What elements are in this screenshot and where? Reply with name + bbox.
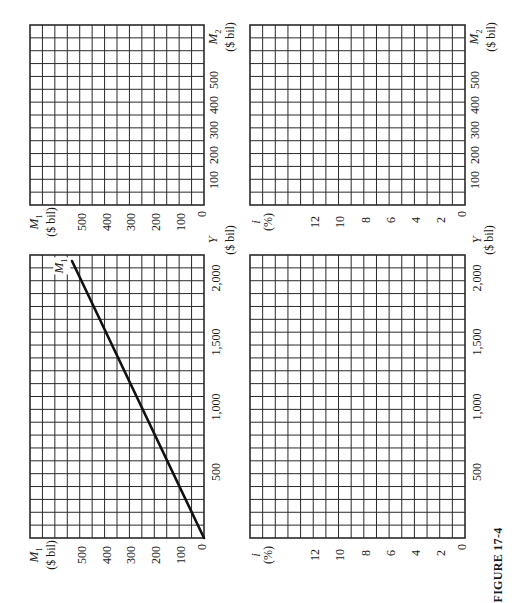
tick-tl-m2-200: 200 (208, 146, 220, 164)
tick-br-y-1500: 1,500 (471, 329, 483, 356)
axis-var: M (26, 552, 41, 563)
line-label-var: M (51, 263, 66, 274)
tick-tr-m2-100: 100 (469, 171, 481, 189)
tick-br-y-500: 500 (471, 463, 483, 481)
tick-bl-y-2000: 2,000 (210, 265, 222, 292)
axis-unit: ($ bil) (45, 540, 59, 570)
tick-tl-m2-500: 500 (208, 71, 220, 89)
tick-br-y-1000: 1,000 (471, 394, 483, 421)
axis-title-i-top-right: i (%) (250, 213, 274, 231)
axis-title-m1-bottom-left: M1 ($ bil) (28, 540, 57, 570)
tick-tl-m2-100: 100 (208, 171, 220, 189)
axis-title-i-bottom-right: i (%) (250, 546, 274, 564)
tick-bl-m1-300: 300 (125, 546, 137, 564)
tick-br-i-4: 4 (410, 550, 422, 556)
axis-title-m2-top-left: M2 ($ bil) (207, 22, 236, 52)
axis-title-y-bottom-right: Y ($ bil) (471, 225, 495, 255)
axis-unit: (%) (261, 546, 275, 564)
axis-unit: ($ bil) (224, 225, 238, 255)
tick-bl-m1-0: 0 (196, 544, 208, 550)
axis-var: M (26, 219, 41, 230)
tick-tl-m1-500: 500 (76, 213, 88, 231)
tick-br-i-6: 6 (385, 550, 397, 556)
tick-bl-m1-500: 500 (76, 546, 88, 564)
tick-tl-m1-0: 0 (196, 211, 208, 217)
grid-top-left (30, 25, 204, 205)
tick-tl-m1-200: 200 (150, 213, 162, 231)
tick-tr-i-8: 8 (360, 217, 372, 223)
tick-br-i-10: 10 (334, 549, 346, 561)
axis-sub: 2 (214, 30, 223, 34)
tick-tr-m2-500: 500 (469, 71, 481, 89)
grid-canvas (0, 0, 521, 603)
axis-unit: ($ bil) (485, 22, 499, 52)
grid-bottom-left (30, 255, 204, 538)
tick-tr-m2-300: 300 (469, 121, 481, 139)
tick-bl-y-1000: 1,000 (210, 394, 222, 421)
m1-line-label: M1 (53, 258, 70, 275)
figure-17-4: M2 ($ bil) 100 200 300 400 500 M1 ($ bil… (0, 0, 521, 603)
line-label-sub: 1 (60, 259, 69, 263)
axis-sub: 2 (475, 30, 484, 34)
tick-tr-m2-200: 200 (469, 146, 481, 164)
axis-unit: ($ bil) (482, 225, 496, 255)
axis-sub: 1 (35, 548, 44, 552)
tick-tr-i-6: 6 (385, 217, 397, 223)
axis-title-m1-top-left: M1 ($ bil) (28, 207, 57, 237)
tick-br-i-0: 0 (456, 544, 468, 550)
tick-bl-m1-400: 400 (101, 546, 113, 564)
grid-bottom-right (250, 255, 465, 538)
axis-sub: 1 (35, 215, 44, 219)
tick-br-i-12: 12 (309, 549, 321, 561)
tick-br-i-2: 2 (435, 550, 447, 556)
axis-title-m2-top-right: M2 ($ bil) (468, 22, 497, 52)
figure-caption: FIGURE 17-4 (491, 528, 506, 603)
tick-bl-m1-200: 200 (150, 546, 162, 564)
grid-top-right (250, 25, 465, 205)
axis-var: M (205, 34, 220, 45)
axis-var: M (466, 34, 481, 45)
tick-tr-i-12: 12 (309, 216, 321, 228)
tick-br-y-2000: 2,000 (471, 265, 483, 292)
axis-title-y-bottom-left: Y ($ bil) (207, 225, 236, 255)
tick-tl-m1-100: 100 (175, 213, 187, 231)
tick-tr-i-4: 4 (410, 217, 422, 223)
tick-tl-m2-400: 400 (208, 96, 220, 114)
tick-tl-m1-300: 300 (125, 213, 137, 231)
tick-tr-m2-400: 400 (469, 96, 481, 114)
axis-unit: ($ bil) (45, 207, 59, 237)
tick-bl-y-500: 500 (210, 463, 222, 481)
tick-tr-i-2: 2 (435, 217, 447, 223)
tick-br-i-8: 8 (360, 550, 372, 556)
axis-unit: (%) (261, 213, 275, 231)
tick-tr-i-10: 10 (334, 216, 346, 228)
tick-bl-m1-100: 100 (175, 546, 187, 564)
tick-tl-m2-300: 300 (208, 121, 220, 139)
axis-var: Y (205, 236, 220, 243)
tick-tr-i-0: 0 (456, 211, 468, 217)
tick-bl-y-1500: 1,500 (210, 329, 222, 356)
axis-unit: ($ bil) (224, 22, 238, 52)
tick-tl-m1-400: 400 (101, 213, 113, 231)
